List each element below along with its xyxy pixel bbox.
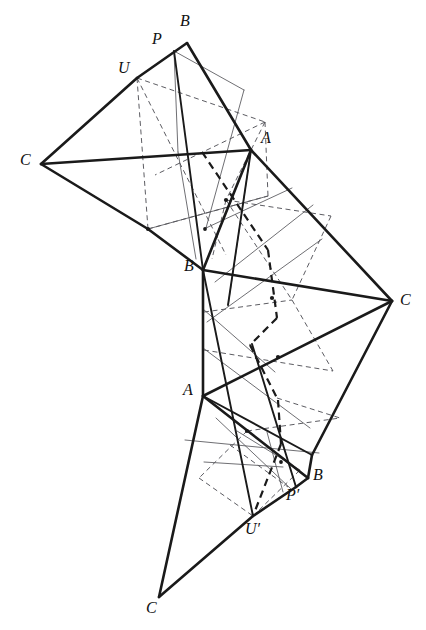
edge-C-left-to-A-upper: [41, 150, 251, 164]
geometric-figure: BPUCABCABP′U′C: [0, 0, 426, 630]
figure-canvas: [0, 0, 426, 630]
aux-upper-cross-1: [148, 196, 268, 229]
label-U-top: U: [118, 60, 130, 76]
dash-U-to-right: [137, 78, 265, 122]
dash-mid-lower-3: [292, 300, 333, 371]
edge-C-left-to-D-upper: [41, 164, 148, 229]
node-dot-upper-left: [146, 227, 150, 231]
node-dot-low-upper: [245, 429, 249, 433]
edge-B-top-to-U-top: [137, 43, 187, 78]
label-C-left: C: [20, 152, 31, 168]
node-dot-low-mid: [279, 460, 283, 464]
dash-mid-lower-1: [204, 300, 292, 312]
node-dot-mid-center: [270, 296, 274, 300]
node-dot-mid-lower: [276, 355, 280, 359]
aux-low-1: [185, 440, 319, 453]
aux-P-top-to-F: [174, 51, 244, 90]
label-A-upper: A: [261, 130, 271, 146]
edge-A-lower-to-E-right: [203, 396, 312, 455]
edge-A-lower-to-C-bottom: [159, 396, 203, 597]
edge-P-top-to-B-middle: [174, 51, 203, 270]
heavy-solid-layer: [41, 43, 392, 597]
node-dot-upper-mid: [203, 227, 207, 231]
aux-mid-to-B-mid-low: [178, 152, 196, 259]
label-C-right: C: [400, 292, 411, 308]
label-B-middle: B: [184, 258, 194, 274]
edge-A-lower-to-C-right: [203, 301, 392, 396]
edge-E-right-to-B-lower: [308, 455, 312, 478]
heavy-dash-seg-2: [268, 250, 277, 318]
label-P-prime: P′: [286, 487, 299, 503]
edge-A-lower-to-B-lower: [203, 396, 308, 478]
label-B-lower: B: [313, 467, 323, 483]
label-B-top: B: [180, 13, 190, 29]
edge-A-upper-to-G-ext: [228, 150, 251, 305]
heavy-dash-seg-3: [250, 318, 277, 345]
label-C-bottom: C: [146, 600, 157, 616]
dash-U-down: [137, 78, 148, 229]
dash-low-3: [199, 478, 253, 516]
label-P-top: P: [152, 31, 162, 47]
light-dashed-layer: [137, 78, 340, 516]
edge-C-right-to-E-right: [312, 301, 392, 455]
node-dot-mid-upper: [224, 198, 228, 202]
label-A-lower: A: [183, 382, 193, 398]
edge-B-top-to-A-upper: [187, 43, 251, 150]
node-dot-layer: [146, 198, 283, 464]
dash-low-5: [277, 398, 340, 418]
label-U-prime: U′: [245, 521, 260, 537]
edge-U-top-to-C-left: [41, 78, 137, 164]
